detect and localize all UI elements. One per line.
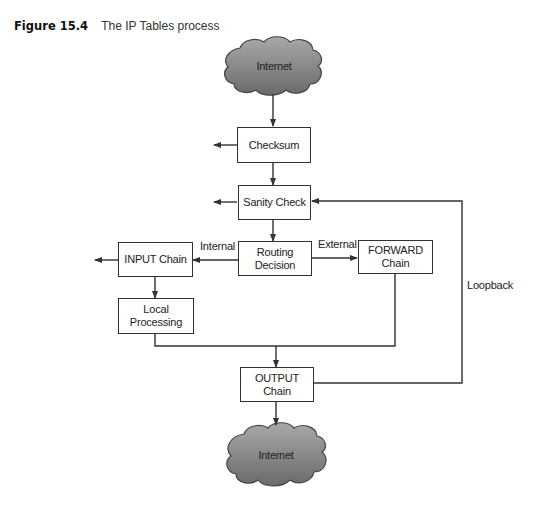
internet-source-label: Internet — [248, 60, 300, 72]
checksum-label: Checksum — [249, 139, 299, 152]
sanity-check-node: Sanity Check — [238, 185, 311, 220]
routing-decision-node: Routing Decision — [238, 241, 312, 276]
input-chain-node: INPUT Chain — [118, 242, 193, 277]
input-chain-label: INPUT Chain — [124, 253, 186, 266]
forward-chain-node: FORWARD Chain — [358, 240, 433, 274]
external-edge-label: External — [318, 238, 357, 250]
forward-chain-label: FORWARD Chain — [368, 244, 423, 270]
output-chain-label: OUTPUT Chain — [241, 372, 313, 398]
local-processing-label: Local Processing — [130, 303, 182, 329]
local-processing-node: Local Processing — [118, 298, 194, 334]
internal-edge-label: Internal — [200, 240, 235, 252]
sanity-check-label: Sanity Check — [243, 196, 305, 209]
loopback-edge-label: Loopback — [467, 279, 513, 291]
output-chain-node: OUTPUT Chain — [240, 367, 314, 402]
routing-decision-label: Routing Decision — [255, 246, 296, 272]
internet-destination-label: Internet — [250, 449, 302, 461]
checksum-node: Checksum — [237, 127, 311, 163]
